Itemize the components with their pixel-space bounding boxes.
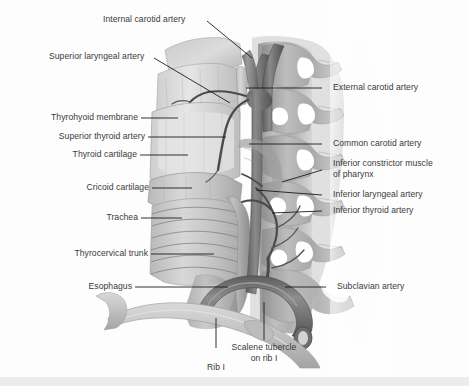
label-cricoid-cartilage: Cricoid cartilage xyxy=(0,182,149,193)
label-scalene-tubercle: Scalene tubercle on rib I xyxy=(222,342,306,363)
label-inferior-thyroid-artery: Inferior thyroid artery xyxy=(333,205,413,216)
footer-bar xyxy=(0,377,469,386)
label-common-carotid-artery: Common carotid artery xyxy=(333,138,421,149)
label-inferior-constrictor-muscle: Inferior constrictor muscle of pharynx xyxy=(333,158,469,179)
label-inferior-laryngeal-artery: Inferior laryngeal artery xyxy=(333,189,423,200)
label-subclavian-artery: Subclavian artery xyxy=(337,281,404,292)
label-scalene-tubercle-line1: Scalene tubercle xyxy=(232,342,297,352)
label-thyroid-cartilage: Thyroid cartilage xyxy=(0,149,137,160)
label-superior-laryngeal-artery: Superior laryngeal artery xyxy=(49,51,144,62)
label-superior-thyroid-artery: Superior thyroid artery xyxy=(0,131,145,142)
label-inferior-constrictor-muscle-line2: of pharynx xyxy=(333,169,374,179)
label-thyrocervical-trunk: Thyrocervical trunk xyxy=(0,248,148,259)
label-trachea: Trachea xyxy=(0,212,138,223)
label-rib-i: Rib I xyxy=(196,362,236,373)
label-thyrohyoid-membrane: Thyrohyoid membrane xyxy=(0,112,138,123)
anatomy-figure: Internal carotid artery Superior larynge… xyxy=(0,0,469,386)
label-esophagus: Esophagus xyxy=(0,281,132,292)
label-external-carotid-artery: External carotid artery xyxy=(333,82,418,93)
label-scalene-tubercle-line2: on rib I xyxy=(251,353,278,363)
label-internal-carotid-artery: Internal carotid artery xyxy=(103,14,185,25)
label-inferior-constrictor-muscle-line1: Inferior constrictor muscle xyxy=(333,158,433,168)
trachea xyxy=(150,199,244,286)
